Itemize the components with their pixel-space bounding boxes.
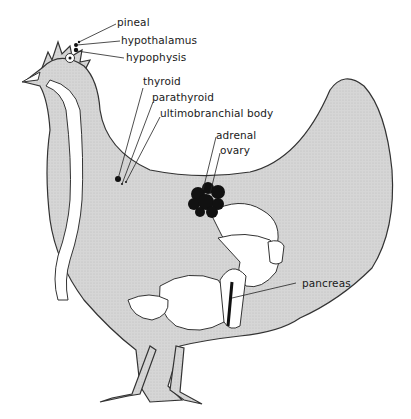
cloaca-tube [268, 241, 284, 264]
label-thyroid: thyroid [143, 76, 181, 87]
hypophysis-gland [74, 48, 78, 52]
label-parathyroid: parathyroid [152, 92, 214, 103]
label-pancreas: pancreas [302, 278, 351, 289]
label-ovary: ovary [220, 145, 250, 156]
label-adrenal: adrenal [216, 130, 256, 141]
label-hypothalamus: hypothalamus [121, 35, 197, 46]
label-pineal: pineal [117, 17, 150, 28]
beak [22, 72, 40, 82]
label-ultimobranchial-body: ultimobranchial body [160, 108, 273, 119]
hen-anatomy-diagram [0, 0, 411, 419]
label-hypophysis: hypophysis [126, 52, 186, 63]
